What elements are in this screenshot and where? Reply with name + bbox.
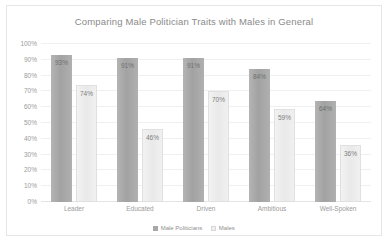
bar[interactable]: 84% — [249, 69, 270, 202]
bar-group: 93%74% — [41, 44, 107, 202]
bar[interactable]: 91% — [117, 58, 138, 202]
bar-value-label: 36% — [341, 150, 360, 157]
bar[interactable]: 59% — [274, 109, 295, 202]
bar[interactable]: 93% — [51, 55, 72, 202]
bar[interactable]: 91% — [183, 58, 204, 202]
x-axis-labels: LeaderEducatedDrivenAmbitiousWell-Spoken — [41, 205, 371, 212]
x-axis-tick-label: Leader — [41, 205, 107, 212]
chart-legend: Male PoliticiansMales — [7, 225, 381, 231]
bar-groups: 93%74%91%46%91%70%84%59%64%36% — [41, 44, 371, 202]
x-axis-tick-label: Ambitious — [239, 205, 305, 212]
y-axis-tick-label: 0% — [28, 198, 37, 205]
bar[interactable]: 46% — [142, 129, 163, 202]
bar-group: 91%46% — [107, 44, 173, 202]
plot-area: 0%10%20%30%40%50%60%70%80%90%100% 93%74%… — [41, 44, 371, 202]
bar-value-label: 70% — [209, 96, 228, 103]
y-axis-tick-label: 100% — [20, 40, 37, 47]
legend-swatch — [211, 226, 216, 231]
legend-item[interactable]: Male Politicians — [153, 225, 202, 231]
bar-value-label: 59% — [275, 114, 294, 121]
x-axis-tick-label: Educated — [107, 205, 173, 212]
bar-group: 64%36% — [305, 44, 371, 202]
bar[interactable]: 64% — [315, 101, 336, 202]
bar-value-label: 91% — [117, 62, 138, 69]
chart-container: Comparing Male Politician Traits with Ma… — [6, 5, 382, 236]
bar-value-label: 84% — [249, 73, 270, 80]
y-axis-tick-label: 20% — [24, 166, 37, 173]
y-axis-tick-label: 10% — [24, 182, 37, 189]
y-axis-tick-label: 70% — [24, 87, 37, 94]
bar-group: 84%59% — [239, 44, 305, 202]
bar[interactable]: 74% — [76, 85, 97, 202]
x-axis-tick-label: Driven — [173, 205, 239, 212]
y-axis-tick-label: 40% — [24, 134, 37, 141]
chart-title: Comparing Male Politician Traits with Ma… — [7, 16, 381, 27]
y-axis-tick-label: 80% — [24, 71, 37, 78]
bar-value-label: 46% — [143, 134, 162, 141]
x-axis-tick-label: Well-Spoken — [305, 205, 371, 212]
legend-item[interactable]: Males — [211, 225, 235, 231]
bar-value-label: 74% — [77, 90, 96, 97]
bar[interactable]: 36% — [340, 145, 361, 202]
y-axis-tick-label: 60% — [24, 103, 37, 110]
y-axis-tick-label: 30% — [24, 150, 37, 157]
bar-value-label: 93% — [51, 59, 72, 66]
bar-group: 91%70% — [173, 44, 239, 202]
y-axis-tick-label: 50% — [24, 119, 37, 126]
bar-value-label: 64% — [315, 105, 336, 112]
legend-label: Males — [219, 225, 235, 231]
bar[interactable]: 70% — [208, 91, 229, 202]
bar-value-label: 91% — [183, 62, 204, 69]
y-axis-tick-label: 90% — [24, 55, 37, 62]
legend-label: Male Politicians — [161, 225, 203, 231]
legend-swatch — [153, 226, 158, 231]
